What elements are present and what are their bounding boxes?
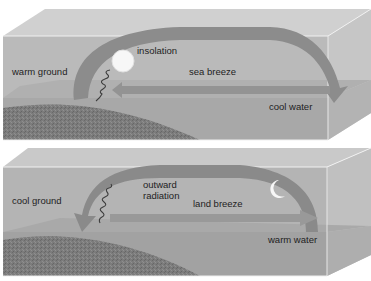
label-sea-breeze: sea breeze	[189, 66, 236, 77]
panel-land-breeze	[0, 145, 371, 276]
label-outward: outward	[143, 179, 177, 190]
box-top-face	[3, 148, 371, 167]
label-warm-water: warm water	[268, 234, 317, 245]
label-cool-ground: cool ground	[12, 195, 62, 206]
label-cool-water: cool water	[269, 101, 312, 112]
label-radiation: radiation	[143, 190, 179, 201]
label-warm-ground: warm ground	[12, 66, 67, 77]
label-land-breeze: land breeze	[193, 198, 243, 209]
sun-icon	[112, 50, 134, 72]
diagram-canvas: warm ground insolation sea breeze cool w…	[0, 0, 371, 281]
label-insolation: insolation	[137, 45, 177, 56]
